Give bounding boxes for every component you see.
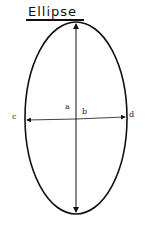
label-a: a bbox=[65, 102, 70, 111]
ellipse-diagram bbox=[0, 0, 146, 225]
label-c: c bbox=[12, 112, 16, 121]
minor-axis-arrow-left bbox=[27, 119, 76, 120]
label-b: b bbox=[82, 107, 87, 116]
minor-axis-arrow-right bbox=[76, 117, 125, 119]
label-d: d bbox=[129, 110, 134, 119]
